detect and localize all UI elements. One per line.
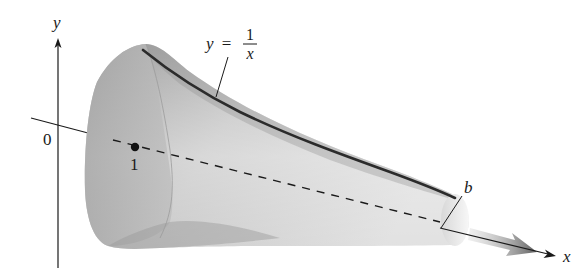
point-x-equals-1 xyxy=(131,143,139,151)
infinity-arrow-icon xyxy=(468,228,537,256)
equation-lhs: y = xyxy=(204,34,231,53)
y-axis: y xyxy=(51,13,62,268)
point-one-label: 1 xyxy=(130,155,139,174)
equation-numerator: 1 xyxy=(246,26,254,43)
equation-denominator: x xyxy=(245,45,253,62)
horn-end-cap xyxy=(441,194,469,246)
origin-label: 0 xyxy=(43,130,52,149)
horn-surface xyxy=(85,44,469,249)
x-axis-stub xyxy=(31,118,88,133)
endpoint-b-label: b xyxy=(464,178,473,197)
gabriels-horn-diagram: y 0 1 x b y = 1 x xyxy=(0,0,585,276)
curve-equation-label: y = 1 x xyxy=(204,26,257,97)
equation-leader-line xyxy=(216,57,228,97)
x-axis-label: x xyxy=(562,247,571,266)
y-axis-label: y xyxy=(51,13,61,32)
